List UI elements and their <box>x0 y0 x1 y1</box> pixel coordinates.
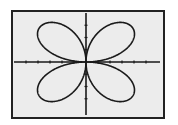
rose-plot <box>0 0 178 125</box>
